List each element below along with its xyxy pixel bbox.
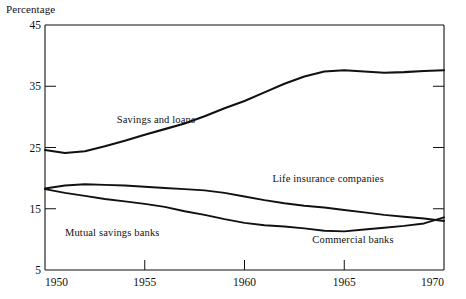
x-tick-label: 1965 bbox=[333, 276, 356, 288]
y-axis-title: Percentage bbox=[6, 3, 55, 15]
series-line-savings-and-loans bbox=[45, 70, 444, 153]
x-axis-tick-labels: 1950 1955 1960 1965 1970 bbox=[45, 276, 444, 288]
y-tick-label: 15 bbox=[30, 203, 42, 215]
line-chart-svg: 45 35 25 15 5 1950 1955 1960 1965 1970 S… bbox=[0, 0, 466, 299]
y-tick-label: 5 bbox=[35, 264, 41, 276]
x-tick-label: 1950 bbox=[45, 276, 68, 288]
chart-container: Percentage 45 35 bbox=[0, 0, 466, 299]
y-tick-label: 35 bbox=[30, 80, 42, 92]
annotation-commercial-banks: Commercial banks bbox=[312, 234, 393, 245]
y-tick-label: 45 bbox=[30, 19, 42, 31]
x-tick-label: 1955 bbox=[133, 276, 156, 288]
annotation-savings-and-loans: Savings and loans bbox=[117, 114, 195, 125]
series-lines bbox=[45, 70, 444, 231]
x-tick-label: 1960 bbox=[233, 276, 256, 288]
y-axis-tick-labels: 45 35 25 15 5 bbox=[30, 19, 42, 276]
series-line-life-insurance-companies bbox=[45, 184, 444, 221]
x-axis-ticks bbox=[145, 260, 345, 270]
annotation-mutual-savings-banks: Mutual savings banks bbox=[65, 227, 160, 238]
series-annotations: Savings and loans Life insurance compani… bbox=[65, 114, 394, 245]
x-tick-label: 1970 bbox=[421, 276, 444, 288]
annotation-life-insurance-companies: Life insurance companies bbox=[272, 173, 383, 184]
y-axis-ticks-right bbox=[433, 86, 444, 209]
series-line-mutual-savings-banks bbox=[45, 189, 444, 231]
y-tick-label: 25 bbox=[30, 142, 42, 154]
